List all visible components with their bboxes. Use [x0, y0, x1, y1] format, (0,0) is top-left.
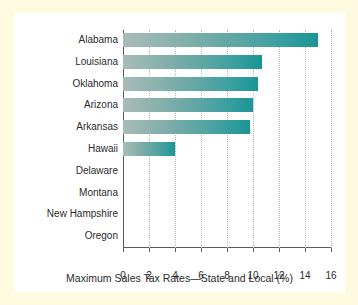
bar-row: [123, 95, 331, 116]
bar-row: [123, 52, 331, 73]
category-label: Montana: [79, 187, 118, 199]
x-axis-tick: [331, 248, 332, 252]
x-axis-tick: [149, 248, 150, 252]
x-axis-tick: [279, 248, 280, 252]
x-axis-title: Maximum Sales Tax Rates—State and Local …: [14, 272, 345, 284]
chart-card: AlabamaLouisianaOklahomaArizonaArkansasH…: [14, 13, 345, 292]
bar-row: [123, 226, 331, 247]
bar: [123, 142, 175, 156]
figure-frame: AlabamaLouisianaOklahomaArizonaArkansasH…: [0, 0, 358, 305]
x-axis-tick: [123, 248, 124, 252]
gridline: [331, 30, 332, 248]
bar: [123, 55, 262, 69]
bar: [123, 77, 258, 91]
x-axis-tick: [175, 248, 176, 252]
bar-row: [123, 161, 331, 182]
category-label: Oklahoma: [72, 78, 118, 90]
category-label: Arizona: [84, 99, 118, 111]
category-label: Oregon: [85, 230, 118, 242]
category-label: Delaware: [76, 165, 118, 177]
bar-row: [123, 117, 331, 138]
bar: [123, 33, 318, 47]
x-axis-tick: [253, 248, 254, 252]
bar-row: [123, 204, 331, 225]
category-label: New Hampshire: [47, 208, 118, 220]
bar: [123, 98, 253, 112]
category-label: Arkansas: [76, 121, 118, 133]
bar-row: [123, 74, 331, 95]
category-label: Louisiana: [75, 56, 118, 68]
bar-row: [123, 139, 331, 160]
category-label: Alabama: [79, 34, 118, 46]
category-axis-labels: AlabamaLouisianaOklahomaArizonaArkansasH…: [14, 30, 118, 248]
bar: [123, 120, 250, 134]
x-axis-tick: [201, 248, 202, 252]
category-label: Hawaii: [88, 143, 118, 155]
plot-area: 0246810121416: [123, 30, 331, 248]
x-axis-tick: [227, 248, 228, 252]
bar-row: [123, 30, 331, 51]
x-axis-tick: [305, 248, 306, 252]
bar-row: [123, 183, 331, 204]
